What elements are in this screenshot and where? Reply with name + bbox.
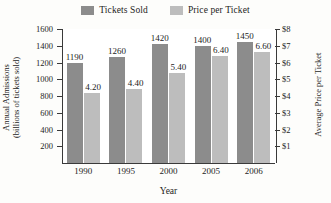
right-tick-label: $3 [282, 109, 291, 118]
x-tick-label: 2006 [230, 167, 278, 176]
bar-tickets-sold: 1450 [237, 42, 253, 163]
left-axis-title-line2: (billions of tickets sold) [11, 31, 21, 165]
bar-value-label: 4.40 [128, 79, 144, 88]
left-tick-label: 1200 [36, 59, 53, 68]
bar-price-per-ticket: 6.60 [254, 52, 270, 163]
bar-tickets-sold: 1420 [152, 44, 168, 163]
left-tick-label: 400 [40, 126, 53, 135]
right-tick-label: $7 [282, 42, 291, 51]
legend-swatch-price-per-ticket [170, 6, 183, 15]
dual-axis-bar-chart: Tickets Sold Price per Ticket Annual Adm… [0, 0, 331, 203]
right-tick-mark [275, 29, 280, 30]
left-tick-label: 200 [40, 142, 53, 151]
bar-price-per-ticket: 5.40 [169, 73, 185, 163]
bar-value-label: 1260 [108, 47, 126, 56]
right-tick-mark [275, 96, 280, 97]
right-tick-mark [275, 146, 280, 147]
bar-group: 14205.40 [152, 44, 185, 163]
right-tick-mark [275, 63, 280, 64]
left-tick-label: 1600 [36, 25, 53, 34]
right-tick-mark [275, 46, 280, 47]
bar-value-label: 1420 [151, 34, 169, 43]
right-axis-title-text: Average Price per Ticket [314, 28, 324, 162]
right-tick-mark [275, 113, 280, 114]
x-tick-label: 2000 [145, 167, 193, 176]
left-axis-title: Annual Admissions (billions of tickets s… [2, 31, 21, 165]
bar-group: 11904.20 [67, 63, 100, 163]
x-axis-title: Year [62, 186, 275, 196]
bar-value-label: 6.60 [256, 42, 272, 51]
bar-value-label: 1450 [236, 32, 254, 41]
right-tick-label: $8 [282, 25, 291, 34]
right-tick-label: $1 [282, 142, 291, 151]
x-tick-label: 2005 [187, 167, 235, 176]
bar-price-per-ticket: 4.20 [84, 93, 100, 163]
right-tick-label: $4 [282, 92, 291, 101]
left-tick-label: 800 [40, 92, 53, 101]
right-axis-title: Average Price per Ticket [314, 28, 324, 162]
bar-group: 14506.60 [237, 42, 270, 163]
bar-value-label: 6.40 [213, 46, 229, 55]
bar-value-label: 1400 [193, 36, 211, 45]
left-tick-label: 1400 [36, 42, 53, 51]
chart-legend: Tickets Sold Price per Ticket [0, 5, 331, 15]
bar-tickets-sold: 1400 [195, 46, 211, 163]
bar-tickets-sold: 1190 [67, 63, 83, 163]
bar-price-per-ticket: 4.40 [126, 89, 142, 163]
bar-value-label: 4.20 [85, 83, 101, 92]
legend-item-price-per-ticket: Price per Ticket [170, 5, 250, 15]
left-tick-label: 600 [40, 109, 53, 118]
legend-swatch-tickets-sold [81, 6, 94, 15]
left-tick-label: 1000 [36, 75, 53, 84]
right-tick-mark [275, 130, 280, 131]
bar-value-label: 5.40 [170, 63, 186, 72]
right-tick-label: $6 [282, 59, 291, 68]
right-tick-label: $5 [282, 75, 291, 84]
bar-tickets-sold: 1260 [109, 57, 125, 163]
x-tick-label: 1995 [102, 167, 150, 176]
legend-label-tickets-sold: Tickets Sold [99, 5, 148, 15]
bar-price-per-ticket: 6.40 [212, 56, 228, 163]
bar-series-container: 11904.2012604.4014205.4014006.4014506.60 [62, 29, 275, 163]
legend-label-price-per-ticket: Price per Ticket [188, 5, 250, 15]
x-tick-label: 1990 [59, 167, 107, 176]
right-tick-mark [275, 79, 280, 80]
bar-group: 14006.40 [195, 46, 228, 163]
bar-value-label: 1190 [66, 53, 84, 62]
legend-item-tickets-sold: Tickets Sold [81, 5, 148, 15]
right-tick-label: $2 [282, 126, 291, 135]
bar-group: 12604.40 [109, 57, 142, 163]
